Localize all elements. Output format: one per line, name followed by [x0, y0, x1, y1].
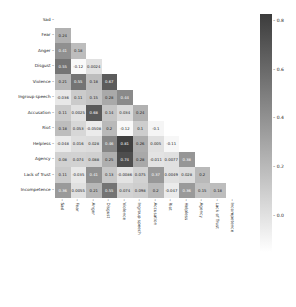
heatmap-cell: 0.38 — [179, 152, 195, 168]
y-axis-label: Sad – — [43, 17, 54, 22]
x-axis-label: – Ingroup speech — [137, 199, 142, 235]
x-axis-label: – Violence — [122, 199, 127, 220]
heatmap-cell: 0.053 — [71, 121, 87, 137]
heatmap-cell: 0.26 — [133, 136, 149, 152]
heatmap-cell: 0.005 — [148, 136, 164, 152]
heatmap-cell: 0.028 — [86, 136, 102, 152]
heatmap-cell: 0.2 — [195, 167, 211, 183]
heatmap-cell: -0.12 — [117, 121, 133, 137]
heatmap-cell: 0.13 — [102, 167, 118, 183]
heatmap-cell: 0.088 — [86, 152, 102, 168]
heatmap-cell: 0.14 — [102, 105, 118, 121]
heatmap-cell: 0.36 — [55, 183, 71, 199]
heatmap-cell: 0.24 — [55, 28, 71, 44]
heatmap-cell: 0.11 — [71, 90, 87, 106]
heatmap-cell: 0.2 — [148, 183, 164, 199]
colorbar-tick-label: – 0.0 — [273, 213, 284, 218]
heatmap-cell: 0.18 — [55, 121, 71, 137]
heatmap-cell: -0.0086 — [117, 167, 133, 183]
x-axis-label: – Agency — [199, 199, 204, 218]
y-axis-label: Agency – — [35, 156, 54, 161]
heatmap-cell: 0.15 — [195, 183, 211, 199]
y-axis-label: Fear – — [42, 32, 54, 37]
x-axis-label: – Riot — [168, 199, 173, 211]
x-axis-label: – Accusation — [153, 199, 158, 225]
y-axis-label: Incompetence – — [21, 187, 54, 192]
heatmap-cell: 0.28 — [102, 90, 118, 106]
y-axis-label: Disgust – — [35, 63, 54, 68]
heatmap-cell: -0.048 — [55, 136, 71, 152]
heatmap-cell: 0.11 — [55, 167, 71, 183]
heatmap-cell: -0.011 — [148, 152, 164, 168]
heatmap-cell: 0.28 — [133, 152, 149, 168]
y-axis-label: Anger – — [38, 48, 54, 53]
heatmap-cell: 0.028 — [179, 167, 195, 183]
correlation-heatmap: Sad –– SadFear –– Fear0.24Anger –– Anger… — [0, 0, 296, 307]
heatmap-cell: 0.55 — [55, 59, 71, 75]
heatmap-cell: 0.0024 — [86, 59, 102, 75]
heatmap-cell: 0.81 — [117, 136, 133, 152]
heatmap-cell: 0.44 — [117, 90, 133, 106]
heatmap-cell: 0.0077 — [164, 152, 180, 168]
x-axis-label: – Sad — [60, 199, 65, 210]
colorbar-tick-label: – 0.2 — [273, 164, 284, 169]
heatmap-cell: 0.016 — [71, 136, 87, 152]
y-axis-label: Helpless – — [33, 141, 54, 146]
heatmap-cell: 0.24 — [133, 105, 149, 121]
heatmap-cell: -0.047 — [164, 183, 180, 199]
heatmap-cell: 0.074 — [71, 152, 87, 168]
heatmap-cell: -0.036 — [55, 90, 71, 106]
heatmap-cell: 0.21 — [55, 74, 71, 90]
y-axis-label: Lack of Trust – — [24, 172, 54, 177]
x-axis-label: – Disgust — [106, 199, 111, 218]
heatmap-cell: 0.18 — [210, 183, 226, 199]
colorbar-tick-label: – 0.6 — [273, 67, 284, 72]
heatmap-cell: 0.74 — [117, 152, 133, 168]
colorbar-tick-label: – 0.4 — [273, 115, 284, 120]
heatmap-cell: 0.074 — [117, 183, 133, 199]
heatmap-cell: 0.034 — [117, 105, 133, 121]
heatmap-cell: 0.36 — [179, 183, 195, 199]
heatmap-cell: 0.55 — [71, 74, 87, 90]
heatmap-cell: -0.11 — [164, 136, 180, 152]
heatmap-cell: 0.098 — [133, 183, 149, 199]
heatmap-cell: 0.18 — [86, 74, 102, 90]
x-axis-label: – Anger — [91, 199, 96, 215]
colorbar — [260, 14, 272, 252]
heatmap-cell: 0.18 — [71, 43, 87, 59]
heatmap-cell: 0.0025 — [71, 105, 87, 121]
heatmap-cell: 0.55 — [102, 183, 118, 199]
heatmap-cell: 0.41 — [55, 43, 71, 59]
heatmap-cell: 0.68 — [86, 105, 102, 121]
heatmap-cell: 0.37 — [148, 167, 164, 183]
colorbar-tick-label: – 0.8 — [273, 18, 284, 23]
heatmap-cell: 0.075 — [133, 167, 149, 183]
heatmap-cell: 0.2 — [102, 121, 118, 137]
heatmap-cell: 0.67 — [102, 74, 118, 90]
y-axis-label: Accusation – — [28, 110, 54, 115]
heatmap-cell: 0.08 — [55, 152, 71, 168]
heatmap-cell: 0.0049 — [164, 167, 180, 183]
heatmap-cell: 0.1 — [133, 121, 149, 137]
heatmap-cell: -0.12 — [71, 59, 87, 75]
heatmap-cell: 0.25 — [102, 152, 118, 168]
y-axis-label: Violence – — [33, 79, 54, 84]
y-axis-label: Ingroup speech – — [18, 94, 54, 99]
heatmap-cell: -0.1 — [148, 121, 164, 137]
heatmap-cell: 0.0055 — [71, 183, 87, 199]
heatmap-cell: 0.46 — [102, 136, 118, 152]
heatmap-cell: -0.035 — [71, 167, 87, 183]
heatmap-cell: 0.11 — [55, 105, 71, 121]
x-axis-label: – Lack of Trust — [215, 199, 220, 229]
y-axis-label: Riot – — [42, 125, 54, 130]
x-axis-label: – Fear — [75, 199, 80, 211]
heatmap-cell: -0.0508 — [86, 121, 102, 137]
heatmap-cell: 0.21 — [86, 183, 102, 199]
heatmap-cell: 0.41 — [86, 167, 102, 183]
x-axis-label: – Incompetence — [230, 199, 235, 232]
x-axis-label: – Helpless — [184, 199, 189, 220]
heatmap-cell: 0.15 — [86, 90, 102, 106]
